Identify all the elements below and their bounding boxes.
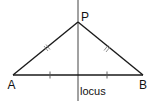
point-label-p: P — [81, 10, 89, 24]
locus-label: locus — [80, 85, 106, 97]
locus-diagram: A B P locus — [0, 0, 156, 104]
point-label-b: B — [139, 78, 147, 92]
segment-pb — [78, 22, 143, 75]
point-label-a: A — [8, 78, 16, 92]
